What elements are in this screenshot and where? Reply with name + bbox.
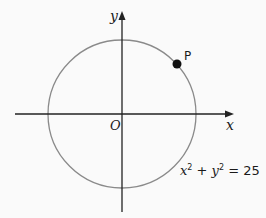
- origin-label: O: [110, 118, 121, 133]
- circle-diagram: y x O P x2 + y2 = 25: [0, 0, 266, 218]
- x-axis-label: x: [226, 117, 234, 133]
- point-p-label: P: [184, 49, 191, 63]
- circle-equation: x2 + y2 = 25: [180, 163, 260, 178]
- point-p-marker: [173, 60, 182, 69]
- y-axis-arrow-icon: [119, 11, 126, 20]
- y-axis-label: y: [109, 8, 119, 24]
